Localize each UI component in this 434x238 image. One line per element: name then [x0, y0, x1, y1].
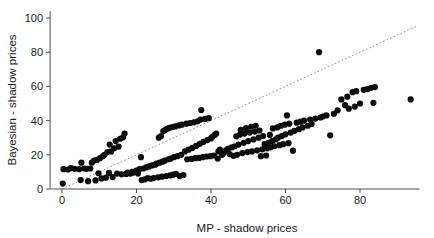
- data-point: [249, 148, 255, 154]
- x-tick-label: 80: [354, 194, 366, 206]
- x-tick-label: 40: [205, 194, 217, 206]
- data-point: [312, 115, 318, 121]
- data-point: [116, 143, 122, 149]
- y-tick-label: 40: [31, 115, 43, 127]
- data-point: [352, 103, 358, 109]
- data-point: [408, 96, 414, 102]
- data-point: [258, 153, 264, 159]
- data-point: [308, 121, 314, 127]
- data-point: [338, 96, 344, 102]
- data-point: [198, 107, 204, 113]
- data-point: [260, 133, 266, 139]
- identity-reference-line: [62, 27, 416, 189]
- data-point: [247, 129, 253, 135]
- y-tick-label: 60: [31, 80, 43, 92]
- data-point: [60, 180, 66, 186]
- data-points-group: [60, 49, 414, 187]
- data-point: [256, 127, 262, 133]
- data-point: [87, 165, 93, 171]
- data-point: [267, 132, 273, 138]
- data-point: [284, 112, 290, 118]
- x-axis-title: MP - shadow prices: [197, 222, 298, 234]
- data-point: [335, 107, 341, 113]
- scatter-plot-figure: 020406080 020406080100 MP - shadow price…: [0, 0, 434, 238]
- data-point: [372, 84, 378, 90]
- data-point: [85, 178, 91, 184]
- y-tick-label: 100: [25, 12, 43, 24]
- y-axis-ticks: 020406080100: [25, 12, 50, 195]
- data-point: [353, 88, 359, 94]
- x-tick-label: 0: [59, 194, 65, 206]
- data-point: [138, 154, 144, 160]
- data-point: [92, 177, 98, 183]
- data-point: [78, 160, 84, 166]
- data-point: [254, 147, 260, 153]
- axes-group: [50, 11, 420, 189]
- data-point: [316, 49, 322, 55]
- x-tick-label: 20: [130, 194, 142, 206]
- data-point: [286, 121, 292, 127]
- data-point: [271, 143, 277, 149]
- data-point: [241, 131, 247, 137]
- data-point: [280, 141, 286, 147]
- data-point: [370, 100, 376, 106]
- data-point: [239, 150, 245, 156]
- data-point: [263, 152, 269, 158]
- y-tick-label: 0: [37, 183, 43, 195]
- y-tick-label: 20: [31, 149, 43, 161]
- data-point: [180, 172, 186, 178]
- y-tick-label: 80: [31, 46, 43, 58]
- data-point: [213, 131, 219, 137]
- y-axis-title: Bayesian - shadow prices: [6, 34, 18, 165]
- data-point: [323, 112, 329, 118]
- data-point: [206, 115, 212, 121]
- data-point: [357, 100, 363, 106]
- data-point: [78, 177, 84, 183]
- data-point: [327, 132, 333, 138]
- data-point: [285, 140, 291, 146]
- data-point: [121, 131, 127, 137]
- data-point: [76, 166, 82, 172]
- data-point: [344, 94, 350, 100]
- plot-canvas: 020406080 020406080100 MP - shadow price…: [0, 0, 434, 238]
- x-tick-label: 60: [279, 194, 291, 206]
- data-point: [290, 148, 296, 154]
- data-point: [346, 106, 352, 112]
- data-point: [301, 118, 307, 124]
- x-axis-ticks: 020406080: [59, 189, 366, 206]
